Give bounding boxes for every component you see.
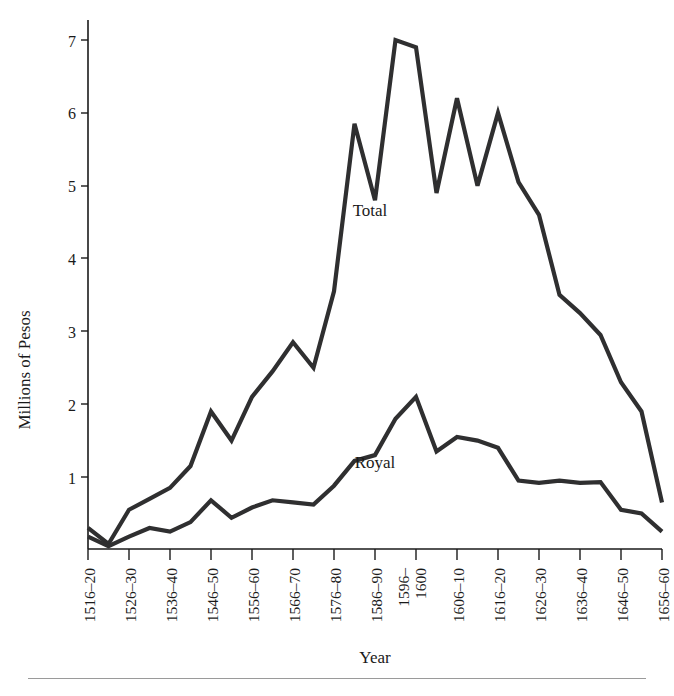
y-tick-label-1: 1	[68, 470, 76, 487]
x-tick-label-1516-20: 1516–20	[81, 568, 98, 623]
x-tick-label-1626-30: 1626–30	[532, 568, 549, 623]
x-tick-label-1546-50: 1546–50	[204, 568, 221, 623]
x-tick-label-1556-60: 1556–60	[245, 568, 262, 623]
x-tick-labels: 1516–20 1526–30 1536–40 1546–50 1556–60 …	[81, 568, 672, 623]
x-tick-label-1596-part1: 1596–	[395, 568, 412, 607]
footer-divider	[28, 678, 646, 679]
x-tick-label-1526-30: 1526–30	[122, 568, 139, 623]
y-tick-label-7: 7	[68, 33, 76, 50]
series-label-royal: Royal	[355, 453, 396, 472]
x-tick-label-1566-70: 1566–70	[286, 568, 303, 623]
x-tick-label-1576-80: 1576–80	[327, 568, 344, 623]
y-axis-title: Millions of Pesos	[15, 310, 34, 429]
x-tick-label-1606-10: 1606–10	[450, 568, 467, 623]
x-tick-marks	[88, 549, 662, 560]
x-tick-label-1636-40: 1636–40	[573, 568, 590, 623]
y-tick-marks	[81, 40, 88, 477]
figure-container: Millions of Pesos 7 6 5 4 3 2 1	[0, 0, 674, 696]
x-tick-label-1586-90: 1586–90	[368, 568, 385, 623]
x-tick-label-1536-40: 1536–40	[163, 568, 180, 623]
x-tick-label-1616-20: 1616–20	[491, 568, 508, 623]
x-tick-label-1656-60: 1656–60	[655, 568, 672, 623]
y-tick-label-2: 2	[68, 397, 76, 414]
x-tick-label-1600-part2: 1600	[412, 568, 429, 599]
series-label-total: Total	[353, 201, 388, 220]
y-tick-label-6: 6	[68, 105, 76, 122]
y-tick-label-3: 3	[68, 324, 76, 341]
y-tick-label-5: 5	[68, 178, 76, 195]
x-tick-label-1646-50: 1646–50	[614, 568, 631, 623]
x-axis-title: Year	[359, 648, 391, 667]
line-chart: Millions of Pesos 7 6 5 4 3 2 1	[0, 0, 674, 696]
y-tick-label-4: 4	[68, 251, 76, 268]
